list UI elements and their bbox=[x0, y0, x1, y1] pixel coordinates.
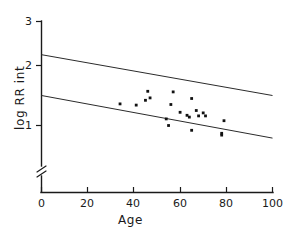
data-point bbox=[119, 103, 122, 106]
data-point bbox=[144, 99, 147, 102]
data-point bbox=[165, 118, 168, 121]
y-tick-label-3: 3 bbox=[25, 16, 32, 27]
data-point bbox=[220, 134, 223, 137]
data-point bbox=[149, 97, 152, 100]
x-tick-label-0: 0 bbox=[38, 198, 45, 209]
data-point bbox=[202, 112, 205, 115]
data-point bbox=[188, 116, 191, 119]
data-point bbox=[172, 91, 175, 94]
data-point bbox=[179, 111, 182, 114]
x-tick-label-20: 20 bbox=[80, 198, 94, 209]
x-tick-label-80: 80 bbox=[219, 198, 233, 209]
data-point bbox=[197, 115, 200, 118]
upper-bound-line bbox=[42, 55, 273, 96]
y-tick-marks bbox=[36, 22, 41, 126]
x-tick-label-40: 40 bbox=[126, 198, 140, 209]
x-axis-title: Age bbox=[118, 214, 143, 226]
data-point bbox=[190, 97, 193, 100]
data-point bbox=[190, 129, 193, 132]
x-tick-label-60: 60 bbox=[173, 198, 187, 209]
scatter-points bbox=[119, 90, 226, 137]
data-point bbox=[195, 109, 198, 112]
data-point bbox=[223, 119, 226, 122]
chart-figure: 3 2 1 0 20 40 60 80 100 Age log RR int bbox=[0, 0, 294, 235]
data-point bbox=[146, 90, 149, 93]
data-point bbox=[135, 104, 138, 107]
regression-lines bbox=[42, 55, 273, 138]
data-point bbox=[169, 103, 172, 106]
x-tick-label-100: 100 bbox=[262, 198, 283, 209]
data-point bbox=[167, 124, 170, 127]
data-point bbox=[204, 115, 207, 118]
lower-bound-line bbox=[42, 96, 273, 139]
x-tick-marks bbox=[42, 187, 273, 192]
y-axis-title: log RR int bbox=[14, 66, 26, 130]
